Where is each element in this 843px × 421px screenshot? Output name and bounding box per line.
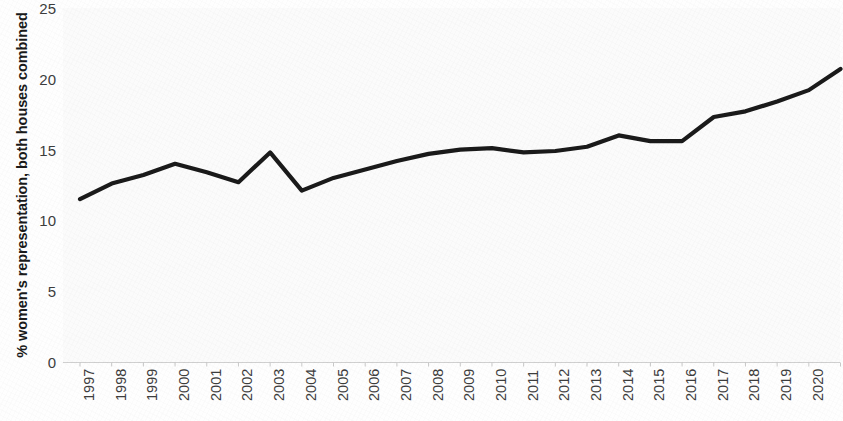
x-axis-tick-labels: 1997199819992000200120022003200420052006… [63,364,840,421]
data-series-line [80,69,841,199]
line-chart: % women's representation, both houses co… [0,0,843,421]
